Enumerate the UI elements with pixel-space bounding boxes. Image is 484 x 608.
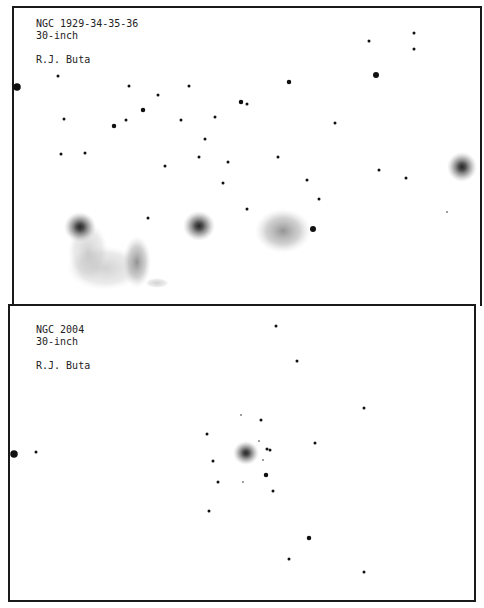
star-icon	[378, 169, 381, 172]
star-field-bottom	[10, 325, 365, 574]
star-icon	[84, 152, 87, 155]
star-icon	[368, 40, 371, 43]
sky-drawing	[0, 0, 484, 608]
star-icon	[240, 414, 242, 416]
star-field-top	[13, 32, 448, 233]
galaxy-ngc-1935	[255, 209, 311, 253]
star-icon	[204, 138, 207, 141]
star-icon	[128, 85, 131, 88]
star-icon	[60, 153, 63, 156]
star-icon	[258, 440, 260, 442]
star-icon	[208, 510, 211, 513]
galaxy-ngc-1929	[64, 212, 96, 242]
star-icon	[206, 433, 209, 436]
star-icon	[157, 94, 160, 97]
star-icon	[314, 442, 317, 445]
star-icon	[310, 226, 316, 232]
star-icon	[269, 449, 272, 452]
star-icon	[318, 198, 321, 201]
star-icon	[188, 85, 191, 88]
star-icon	[262, 459, 264, 461]
star-icon	[239, 100, 244, 105]
star-icon	[246, 103, 249, 106]
star-icon	[288, 558, 291, 561]
star-icon	[363, 571, 366, 574]
star-icon	[266, 448, 269, 451]
star-icon	[112, 124, 117, 129]
star-icon	[164, 165, 167, 168]
star-icon	[277, 156, 280, 159]
star-icon	[334, 122, 337, 125]
star-icon	[63, 118, 66, 121]
star-icon	[260, 419, 263, 422]
star-icon	[212, 460, 215, 463]
star-icon	[57, 75, 60, 78]
galaxy-ngc-1936	[447, 152, 477, 182]
star-icon	[214, 116, 217, 119]
star-icon	[242, 481, 244, 483]
star-icon	[246, 208, 249, 211]
star-icon	[296, 360, 299, 363]
star-icon	[413, 48, 416, 51]
star-icon	[275, 325, 278, 328]
star-icon	[446, 211, 448, 213]
star-icon	[363, 407, 366, 410]
star-icon	[35, 451, 38, 454]
star-icon	[413, 32, 416, 35]
star-icon	[147, 217, 150, 220]
star-icon	[272, 490, 275, 493]
star-icon	[141, 108, 146, 113]
star-icon	[10, 450, 18, 458]
star-icon	[217, 481, 220, 484]
star-icon	[227, 161, 230, 164]
star-icon	[287, 80, 292, 85]
star-icon	[405, 177, 408, 180]
star-icon	[180, 119, 183, 122]
star-icon	[307, 536, 312, 541]
galaxy-ngc-1934	[183, 211, 215, 241]
star-icon	[373, 72, 379, 78]
star-icon	[198, 156, 201, 159]
star-icon	[264, 473, 269, 478]
star-icon	[125, 119, 128, 122]
star-icon	[222, 182, 225, 185]
star-icon	[13, 83, 21, 91]
cluster-ngc-2004	[233, 441, 259, 465]
star-icon	[306, 179, 309, 182]
